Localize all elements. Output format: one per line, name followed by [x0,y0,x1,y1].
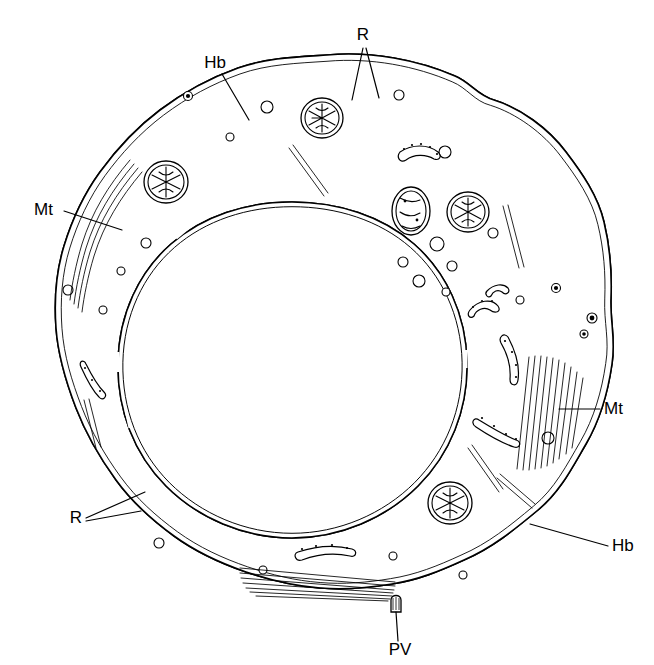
leader-pv [396,612,398,641]
mitochondrion [447,192,489,232]
label-r-bottom: R [70,508,82,527]
label-pv-bottom: PV [389,640,412,659]
label-mt-right: Mt [604,399,623,418]
nuclear-envelope [118,202,467,538]
cell-diagram: R Hb Mt Mt R Hb PV [0,0,654,665]
label-mt-left: Mt [34,200,53,219]
label-hb-bottom: Hb [612,536,634,555]
mitochondrion [392,187,430,235]
mitochondrion [144,161,188,203]
mitochondrion [428,482,472,524]
label-hb-top: Hb [204,53,226,72]
mitochondrion [301,98,343,138]
leader-hb-bottom [530,524,608,546]
pore-vesicle [391,596,401,613]
label-r-top: R [357,25,369,44]
figure-root: R Hb Mt Mt R Hb PV [0,0,654,665]
leader-r-bottom-upper [86,492,145,518]
leader-r-bottom-lower [86,511,141,521]
